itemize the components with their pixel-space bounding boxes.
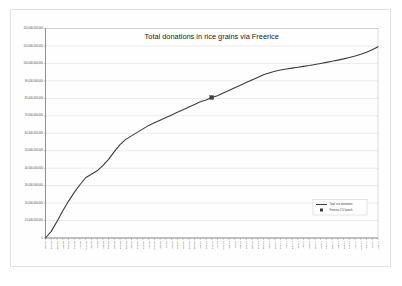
x-tick-label: Jun-12 xyxy=(365,241,368,249)
x-tick-label: Jul-09 xyxy=(165,241,168,248)
x-tick-label: Jan-12 xyxy=(337,241,340,249)
x-tick-label: Dec-08 xyxy=(125,241,128,250)
x-tick-label: Jun-08 xyxy=(90,241,93,249)
x-tick-label: Aug-09 xyxy=(171,241,174,250)
x-tick-label: Mar-10 xyxy=(211,241,214,250)
x-tick-label: Apr-08 xyxy=(79,241,82,249)
legend-label-total-rice-donations: Total rice donations xyxy=(330,202,354,206)
x-tick-label: Oct-08 xyxy=(113,241,116,249)
x-tick-label: Apr-09 xyxy=(148,241,151,249)
x-tick-label: Jan-11 xyxy=(268,241,271,249)
x-tick-label: May-08 xyxy=(85,241,88,250)
y-tick-label: 30,000,000,000 xyxy=(25,183,44,187)
grid-lines xyxy=(46,29,379,221)
y-tick-label: 120,000,000,000 xyxy=(23,26,43,30)
x-tick-label: Feb-10 xyxy=(205,241,208,250)
x-tick-label: Nov-07 xyxy=(50,241,53,250)
x-tick-label: Dec-07 xyxy=(56,241,59,250)
x-tick-label: Dec-11 xyxy=(331,241,334,249)
freerice-2-launch-marker xyxy=(210,95,214,99)
y-tick-label: 60,000,000,000 xyxy=(25,131,44,135)
x-tick-label: Nov-11 xyxy=(325,241,328,249)
x-tick-label: Jun-10 xyxy=(228,241,231,249)
x-tick-label: Feb-11 xyxy=(274,241,277,249)
y-tick-label: 50,000,000,000 xyxy=(25,148,44,152)
x-tick-label: May-11 xyxy=(291,241,294,250)
x-tick-label: Jul-11 xyxy=(302,241,305,248)
line-chart-svg: 010,000,000,00020,000,000,00030,000,000,… xyxy=(0,0,402,286)
y-axis-tick-labels: 010,000,000,00020,000,000,00030,000,000,… xyxy=(23,26,45,240)
x-tick-label: Jul-10 xyxy=(234,241,237,248)
x-tick-label: Dec-09 xyxy=(193,241,196,250)
legend-label-freerice-launch: Freerice 2.0 launch xyxy=(330,208,354,212)
x-tick-label: Oct-07 xyxy=(44,241,47,249)
x-tick-label: May-12 xyxy=(360,241,363,250)
x-tick-label: Oct-09 xyxy=(182,241,185,249)
x-tick-label: Sep-10 xyxy=(245,241,248,250)
x-tick-label: Aug-12 xyxy=(377,241,380,250)
x-tick-label: Jan-08 xyxy=(62,241,65,249)
y-tick-label: 70,000,000,000 xyxy=(25,113,44,117)
x-tick-label: Apr-12 xyxy=(354,241,357,249)
y-tick-label: 40,000,000,000 xyxy=(25,166,44,170)
x-axis-tick-labels: Oct-07Nov-07Dec-07Jan-08Feb-08Mar-08Apr-… xyxy=(44,241,380,250)
y-tick-label: 80,000,000,000 xyxy=(25,96,44,100)
x-tick-label: Aug-08 xyxy=(102,241,105,250)
x-tick-label: Jan-10 xyxy=(199,241,202,249)
x-tick-label: Jun-11 xyxy=(297,241,300,249)
x-tick-label: Mar-09 xyxy=(142,241,145,250)
x-tick-label: Oct-11 xyxy=(320,241,323,249)
chart-title: Total donations in rice grains via Freer… xyxy=(145,32,279,41)
x-tick-label: Nov-08 xyxy=(119,241,122,250)
x-tick-label: Dec-10 xyxy=(262,241,265,250)
y-tick-label: 90,000,000,000 xyxy=(25,79,44,83)
y-tick-label: 10,000,000,000 xyxy=(25,218,44,222)
x-tick-label: Sep-11 xyxy=(314,241,317,249)
x-tick-label: May-10 xyxy=(222,241,225,250)
x-tick-label: Apr-11 xyxy=(285,241,288,249)
x-tick-label: Mar-12 xyxy=(348,241,351,250)
chart-legend: Total rice donations Freerice 2.0 launch xyxy=(313,200,367,216)
y-tick-label: 100,000,000,000 xyxy=(23,61,43,65)
x-tick-label: Aug-10 xyxy=(239,241,242,250)
x-tick-label: Nov-09 xyxy=(188,241,191,250)
y-tick-label: 20,000,000,000 xyxy=(25,201,44,205)
x-tick-label: Jun-09 xyxy=(159,241,162,249)
x-tick-label: Feb-12 xyxy=(343,241,346,250)
x-tick-label: Jan-09 xyxy=(130,241,133,249)
x-tick-label: Jul-08 xyxy=(96,241,99,248)
x-tick-label: Jul-12 xyxy=(371,241,374,248)
x-tick-label: Mar-08 xyxy=(73,241,76,250)
x-tick-label: Feb-08 xyxy=(67,241,70,250)
chart-page: 010,000,000,00020,000,000,00030,000,000,… xyxy=(0,0,402,286)
chart-canvas: 010,000,000,00020,000,000,00030,000,000,… xyxy=(0,0,402,286)
x-tick-label: Feb-09 xyxy=(136,241,139,250)
legend-marker-swatch xyxy=(320,209,323,212)
x-tick-label: Apr-10 xyxy=(216,241,219,249)
legend-box xyxy=(313,200,367,216)
x-tick-label: Aug-11 xyxy=(308,241,311,249)
x-tick-label: Mar-11 xyxy=(279,241,282,249)
x-tick-label: Sep-08 xyxy=(107,241,110,250)
x-tick-label: Nov-10 xyxy=(257,241,260,250)
x-tick-label: May-09 xyxy=(153,241,156,250)
x-tick-label: Sep-09 xyxy=(176,241,179,250)
y-tick-label: 110,000,000,000 xyxy=(24,44,44,48)
x-tick-label: Oct-10 xyxy=(251,241,254,249)
y-tick-label: 0 xyxy=(41,236,43,240)
